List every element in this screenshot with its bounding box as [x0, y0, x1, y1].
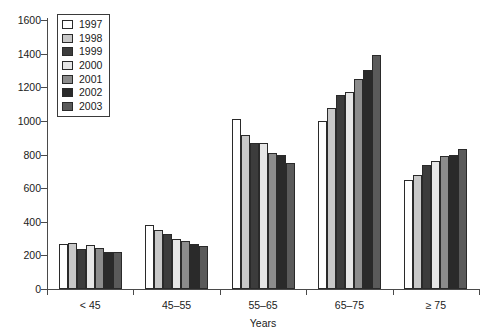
- bar-group: [133, 20, 219, 289]
- bar-2001-65–75: [354, 79, 363, 289]
- bar-1999-≥75: [422, 165, 431, 289]
- x-axis-category-labels: < 4545–5555–6565–75≥ 75: [47, 299, 479, 315]
- legend-item-1998: 1998: [62, 32, 102, 46]
- legend-swatch-icon: [62, 75, 73, 84]
- bar-2003-65–75: [372, 55, 381, 289]
- bar-1997-≥75: [404, 180, 413, 289]
- bar-2003-55–65: [286, 163, 295, 289]
- bar-1997-65–75: [318, 121, 327, 289]
- legend-item-2001: 2001: [62, 72, 102, 86]
- bar-groups: [47, 20, 479, 289]
- bar-2002-55–65: [277, 155, 286, 290]
- legend-label: 2003: [79, 101, 102, 112]
- x-axis-category-label: < 45: [47, 299, 133, 315]
- bar-2001-45–55: [181, 241, 190, 289]
- bar-2000-65–75: [345, 92, 354, 289]
- bar-1999-55–65: [250, 143, 259, 289]
- bar-2001-<45: [95, 248, 104, 289]
- legend-item-1997: 1997: [62, 18, 102, 32]
- bar-2002-<45: [104, 252, 113, 289]
- legend-swatch-icon: [62, 88, 73, 97]
- legend-label: 1998: [79, 33, 102, 44]
- x-axis-tick: [220, 289, 221, 295]
- legend-item-2003: 2003: [62, 100, 102, 114]
- legend-label: 2000: [79, 60, 102, 71]
- bar-1998-55–65: [241, 135, 250, 289]
- bar-1997-45–55: [145, 225, 154, 289]
- x-axis-category-label: 55–65: [220, 299, 306, 315]
- y-axis-tick-label: 1600: [18, 15, 41, 25]
- legend-label: 2001: [79, 74, 102, 85]
- legend-swatch-icon: [62, 47, 73, 56]
- legend-swatch-icon: [62, 102, 73, 111]
- legend-swatch-icon: [62, 34, 73, 43]
- y-axis-tick-label: 400: [23, 217, 41, 227]
- x-axis-tick: [306, 289, 307, 295]
- bar-2002-45–55: [190, 244, 199, 289]
- bar-2003-<45: [113, 252, 122, 289]
- legend-label: 1997: [79, 19, 102, 30]
- bar-1998-<45: [68, 243, 77, 289]
- bar-2003-≥75: [458, 149, 467, 289]
- bar-2002-≥75: [449, 155, 458, 290]
- x-axis-tick: [133, 289, 134, 295]
- y-axis-tick-label: 800: [23, 150, 41, 160]
- y-axis-tick-label: 1200: [18, 82, 41, 92]
- bar-1998-≥75: [413, 175, 422, 289]
- bar-group: [220, 20, 306, 289]
- bar-group: [306, 20, 392, 289]
- bar-2001-≥75: [440, 156, 449, 289]
- bar-1999-65–75: [336, 95, 345, 289]
- bar-2000-<45: [86, 245, 95, 289]
- legend-item-2000: 2000: [62, 59, 102, 73]
- legend-swatch-icon: [62, 20, 73, 29]
- bar-2000-45–55: [172, 239, 181, 289]
- legend: 1997199819992000200120022003: [57, 14, 110, 117]
- x-axis-ticks: [47, 289, 479, 295]
- legend-label: 1999: [79, 46, 102, 57]
- legend-item-1999: 1999: [62, 45, 102, 59]
- bar-2000-55–65: [259, 143, 268, 289]
- bar-group: [393, 20, 479, 289]
- x-axis-tick: [479, 289, 480, 295]
- x-axis-tick: [393, 289, 394, 295]
- bar-1997-<45: [59, 244, 68, 289]
- y-axis-tick-label: 600: [23, 183, 41, 193]
- x-axis-category-label: ≥ 75: [393, 299, 479, 315]
- bar-2002-65–75: [363, 70, 372, 289]
- legend-item-2002: 2002: [62, 86, 102, 100]
- legend-swatch-icon: [62, 61, 73, 70]
- legend-label: 2002: [79, 87, 102, 98]
- y-axis-tick-label: 200: [23, 250, 41, 260]
- bar-2003-45–55: [199, 246, 208, 289]
- bar-2001-55–65: [268, 153, 277, 289]
- x-axis-tick: [47, 289, 48, 295]
- bar-chart: 02004006008001000120014001600 < 4545–555…: [0, 0, 485, 336]
- y-axis-labels: 02004006008001000120014001600: [0, 0, 41, 336]
- bar-1999-<45: [77, 249, 86, 289]
- x-axis-category-label: 45–55: [133, 299, 219, 315]
- bar-2000-≥75: [431, 161, 440, 289]
- y-axis-tick-label: 1000: [18, 116, 41, 126]
- x-axis-category-label: 65–75: [306, 299, 392, 315]
- bar-1999-45–55: [163, 234, 172, 289]
- bar-1998-45–55: [154, 230, 163, 289]
- bar-1997-55–65: [232, 119, 241, 289]
- y-axis-tick-label: 1400: [18, 49, 41, 59]
- x-axis-title: Years: [47, 317, 479, 329]
- bar-1998-65–75: [327, 108, 336, 289]
